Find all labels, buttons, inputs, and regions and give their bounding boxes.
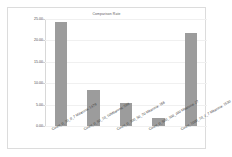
y-axis-tick-mark — [43, 105, 45, 106]
y-axis-line — [45, 19, 46, 127]
y-axis-tick-label: 10.00 — [17, 81, 43, 85]
y-axis-tick-mark — [43, 19, 45, 20]
gridline — [45, 62, 207, 63]
bar[interactable] — [55, 22, 67, 126]
gridline — [45, 19, 207, 20]
y-axis-tick-label: 25.00 — [17, 17, 43, 21]
bar[interactable] — [185, 33, 197, 126]
y-axis-tick-mark — [43, 83, 45, 84]
y-axis-tick-label: 20.00 — [17, 38, 43, 42]
chart-frame: Comparison Rate 0.005.0010.0015.0020.002… — [7, 7, 206, 149]
gridline — [45, 40, 207, 41]
y-axis-tick-label: 0.00 — [17, 124, 43, 128]
x-axis-tick-labels: Count_0_10_0_7 Mitarona: 1479Count_0_50_… — [45, 128, 213, 157]
y-axis-tick-mark — [43, 126, 45, 127]
y-axis-tick-mark — [43, 62, 45, 63]
gridline — [45, 83, 207, 84]
y-axis-tick-labels: 0.005.0010.0015.0020.0025.00 — [10, 19, 43, 129]
y-axis-tick-mark — [43, 40, 45, 41]
y-axis-tick-label: 5.00 — [17, 103, 43, 107]
y-axis-tick-label: 15.00 — [17, 60, 43, 64]
